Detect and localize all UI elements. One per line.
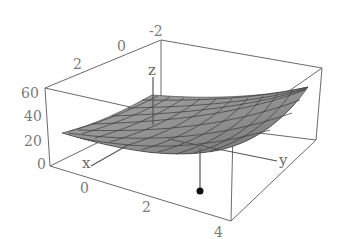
z-tick-40: 40 <box>24 108 42 124</box>
x-axis-line <box>91 145 128 166</box>
x-tick-0: 0 <box>80 180 89 196</box>
z-axis-label: z <box>148 61 156 79</box>
surface <box>62 87 308 154</box>
y-tick-2: 2 <box>73 56 82 72</box>
x-tick-2: 2 <box>142 199 151 215</box>
x-axis-label: x <box>82 154 91 172</box>
z-tick-20: 20 <box>24 133 42 149</box>
x-tick-4: 4 <box>214 224 223 239</box>
y-tick-0: 0 <box>117 38 126 54</box>
y-tick-neg2: -2 <box>149 23 163 39</box>
surface-plot: z x y 60 40 20 0 0 2 4 2 0 -2 <box>0 0 341 239</box>
z-tick-60: 60 <box>21 85 39 101</box>
y-axis-label: y <box>278 151 288 169</box>
point-marker <box>197 188 204 195</box>
z-tick-0: 0 <box>37 156 46 172</box>
